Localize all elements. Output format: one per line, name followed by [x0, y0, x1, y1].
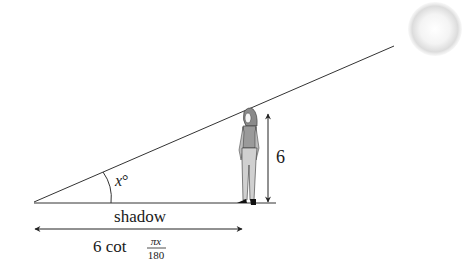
sun-ray-line — [34, 46, 394, 202]
person-figure — [237, 108, 259, 205]
shadow-diagram: x° 6 shadow 6 cot πx 180 — [0, 0, 463, 271]
formula-prefix: 6 cot — [93, 237, 127, 256]
formula-denominator: 180 — [148, 249, 165, 261]
sun-icon — [408, 2, 462, 56]
angle-arc — [103, 172, 111, 203]
angle-label: x° — [114, 172, 129, 189]
shadow-formula: 6 cot πx 180 — [93, 235, 166, 261]
height-label: 6 — [276, 147, 285, 167]
formula-numerator: πx — [151, 235, 162, 247]
shadow-label: shadow — [114, 207, 167, 226]
